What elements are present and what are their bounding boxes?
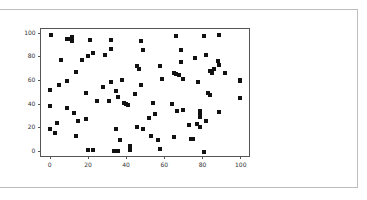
data-point: [204, 119, 208, 123]
data-point: [84, 117, 88, 121]
data-point: [198, 125, 202, 129]
x-tick-label: 60: [160, 162, 168, 168]
data-point: [120, 78, 124, 82]
data-point: [116, 149, 120, 153]
y-tick-label: 100: [24, 30, 35, 36]
x-tick: [126, 157, 127, 159]
data-point: [126, 103, 130, 107]
x-tick-label: 20: [84, 162, 92, 168]
data-point: [181, 77, 185, 81]
data-point: [217, 110, 221, 114]
data-point: [86, 54, 90, 58]
data-point: [84, 91, 88, 95]
data-point: [74, 134, 78, 138]
data-point: [91, 51, 95, 55]
data-point: [198, 115, 202, 119]
data-point: [48, 88, 52, 92]
data-point: [95, 99, 99, 103]
data-point: [196, 80, 200, 84]
x-tick-label: 40: [122, 162, 130, 168]
x-tick: [202, 157, 203, 159]
y-tick: [38, 80, 40, 81]
data-point: [179, 48, 183, 52]
data-point: [217, 63, 221, 67]
data-point: [210, 71, 214, 75]
data-point: [135, 125, 139, 129]
data-point: [107, 99, 111, 103]
data-point: [141, 127, 145, 131]
y-tick: [38, 56, 40, 57]
data-point: [204, 53, 208, 57]
data-point: [151, 101, 155, 105]
data-point: [153, 112, 157, 116]
data-point: [141, 48, 145, 52]
data-point: [238, 79, 242, 83]
data-point: [147, 116, 151, 120]
data-point: [238, 96, 242, 100]
data-point: [91, 148, 95, 152]
data-point: [88, 38, 92, 42]
data-point: [59, 58, 63, 62]
data-point: [114, 127, 118, 131]
data-point: [76, 119, 80, 123]
data-point: [48, 104, 52, 108]
data-point: [55, 121, 59, 125]
data-point: [65, 106, 69, 110]
data-point: [156, 138, 160, 142]
x-tick: [164, 157, 165, 159]
x-tick: [240, 157, 241, 159]
data-point: [187, 123, 191, 127]
data-point: [202, 150, 206, 154]
data-point: [53, 131, 57, 135]
x-tick-label: 0: [48, 162, 52, 168]
data-point: [114, 89, 118, 93]
data-point: [193, 56, 197, 60]
y-tick-label: 20: [28, 124, 36, 130]
y-tick-label: 80: [28, 53, 36, 59]
data-point: [139, 83, 143, 87]
y-tick-label: 40: [28, 101, 36, 107]
data-point: [137, 67, 141, 71]
data-point: [158, 147, 162, 151]
data-point: [72, 111, 76, 115]
data-point: [80, 58, 84, 62]
data-point: [181, 108, 185, 112]
data-point: [179, 60, 183, 64]
data-point: [109, 47, 113, 51]
data-point: [57, 83, 61, 87]
data-point: [170, 102, 174, 106]
data-point: [49, 33, 53, 37]
data-point: [86, 148, 90, 152]
data-point: [48, 127, 52, 131]
y-tick-label: 60: [28, 77, 36, 83]
data-point: [172, 135, 176, 139]
data-point: [101, 85, 105, 89]
data-point: [128, 148, 132, 152]
x-tick-label: 100: [235, 162, 246, 168]
data-point: [217, 33, 221, 37]
data-point: [174, 34, 178, 38]
y-tick: [38, 33, 40, 34]
data-point: [133, 92, 137, 96]
data-point: [158, 64, 162, 68]
data-point: [191, 137, 195, 141]
data-point: [109, 80, 113, 84]
data-point: [70, 39, 74, 43]
x-tick: [50, 157, 51, 159]
data-point: [139, 39, 143, 43]
y-tick: [38, 151, 40, 152]
data-point: [202, 34, 206, 38]
y-tick: [38, 104, 40, 105]
data-point: [223, 71, 227, 75]
x-tick: [88, 157, 89, 159]
data-point: [160, 77, 164, 81]
data-point: [65, 79, 69, 83]
y-tick-label: 0: [31, 148, 35, 154]
data-point: [175, 109, 179, 113]
data-point: [109, 38, 113, 42]
data-point: [116, 95, 120, 99]
data-point: [208, 93, 212, 97]
data-point: [74, 70, 78, 74]
data-point: [149, 134, 153, 138]
data-point: [212, 67, 216, 71]
